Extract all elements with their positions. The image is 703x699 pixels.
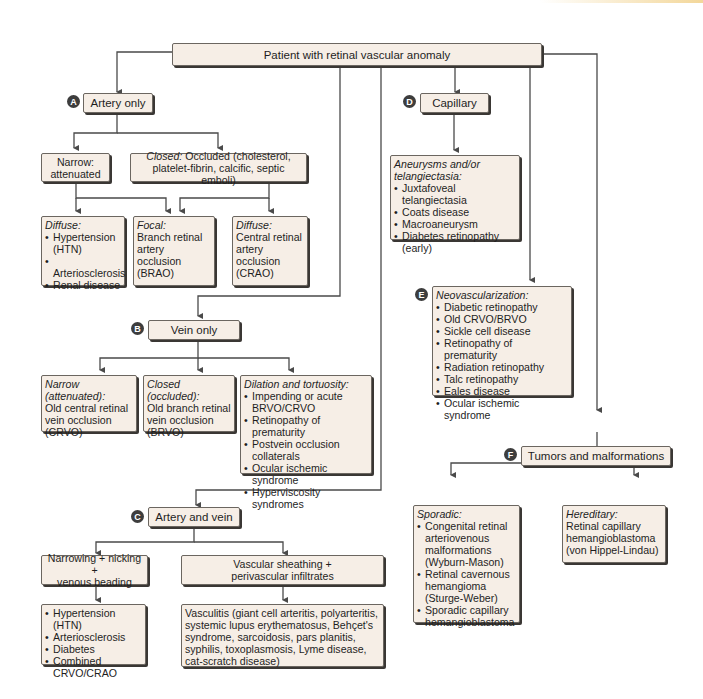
list-item: Diabetes — [45, 643, 142, 655]
artery-and-vein-node[interactable]: Artery and vein — [148, 507, 240, 527]
neo-hdr: Neovascularization: — [436, 289, 568, 301]
artery-diffuse-htn-node[interactable]: Diffuse: Hypertension (HTN) Arterioscler… — [41, 216, 125, 286]
artery-focal-hdr: Focal: — [137, 219, 211, 231]
badge-b-icon: B — [131, 322, 144, 335]
artery-only-label: Artery only — [91, 97, 146, 109]
list-item: Diabetic retinopathy — [436, 301, 568, 313]
list-item: Hypertension (HTN) — [45, 607, 142, 631]
vein-closed-node[interactable]: Closed (occluded): Old branch retinal ve… — [143, 375, 235, 432]
artery-diffuse2-text: Central retinal artery occlusion (CRAO) — [236, 231, 304, 279]
badge-d-icon: D — [403, 95, 416, 108]
vasculitis-text: Vasculitis (giant cell arteritis, polyar… — [185, 607, 380, 667]
artery-focal-node[interactable]: Focal: Branch retinal artery occlusion (… — [133, 216, 215, 286]
artery-closed-node[interactable]: Closed: Occluded (cholesterol, platelet-… — [130, 153, 307, 182]
artery-closed-hdr: Closed: — [146, 150, 182, 162]
vein-closed-hdr: Closed (occluded): — [147, 378, 231, 402]
list-item: Old CRVO/BRVO — [436, 313, 568, 325]
artery-narrow-line2: attenuated — [50, 168, 100, 180]
list-item: Hypertension (HTN) — [45, 231, 121, 255]
artery-diffuse-crao-node[interactable]: Diffuse: Central retinal artery occlusio… — [232, 216, 308, 286]
neovascularization-node[interactable]: Neovascularization: Diabetic retinopathy… — [432, 286, 572, 396]
list-item: Talc retinopathy — [436, 373, 568, 385]
vein-narrow-text: Old central retinal vein occlusion (CRVO… — [45, 402, 133, 438]
list-item: Radiation retinopathy — [436, 361, 568, 373]
list-item: Impending or acute BRVO/CRVO — [244, 390, 368, 414]
narrowing-line2: venous beading — [57, 576, 132, 588]
list-item: Sporadic capillary hemangioblastoma — [417, 604, 516, 628]
artery-diffuse2-hdr: Diffuse: — [236, 219, 304, 231]
list-item: Eales disease — [436, 385, 568, 397]
vein-dilation-node[interactable]: Dilation and tortuosity: Impending or ac… — [240, 375, 372, 474]
badge-c-icon: C — [131, 510, 144, 523]
list-item: Retinopathy of prematurity — [436, 337, 568, 361]
aneurysm-hdr: Aneurysms and/or telangiectasia: — [394, 158, 516, 182]
narrowing-causes-node[interactable]: Hypertension (HTN) Arteriosclerosis Diab… — [41, 604, 146, 665]
badge-f-icon: F — [504, 448, 517, 461]
narrowing-line1: Narrowing + nicking + — [45, 552, 144, 576]
artery-focal-text: Branch retinal artery occlusion (BRAO) — [137, 231, 211, 279]
tumors-node[interactable]: Tumors and malformations — [521, 446, 671, 466]
sheathing-line1: Vascular sheathing + — [233, 558, 331, 570]
artery-and-vein-label: Artery and vein — [155, 511, 232, 523]
artery-narrow-line1: Narrow: — [57, 156, 94, 168]
capillary-node[interactable]: Capillary — [420, 93, 489, 113]
vein-narrow-node[interactable]: Narrow (attenuated): Old central retinal… — [41, 375, 137, 432]
sporadic-hdr: Sporadic: — [417, 508, 516, 520]
vein-only-node[interactable]: Vein only — [148, 320, 240, 340]
list-item: Ocular ischemic syndrome — [436, 397, 568, 421]
root-node[interactable]: Patient with retinal vascular anomaly — [172, 43, 542, 66]
hereditary-hdr: Hereditary: — [566, 508, 662, 520]
list-item: Renal disease — [45, 279, 121, 291]
hereditary-text: Retinal capillary hemangioblastoma (von … — [566, 520, 662, 556]
list-item: Arteriosclerosis — [45, 255, 121, 279]
list-item: Sickle cell disease — [436, 325, 568, 337]
list-item: Diabetes retinopathy (early) — [394, 230, 516, 254]
badge-e-icon: E — [415, 288, 428, 301]
sporadic-node[interactable]: Sporadic: Congenital retinal arterioveno… — [413, 505, 520, 623]
artery-diffuse-hdr: Diffuse: — [45, 219, 121, 231]
vein-narrow-hdr: Narrow (attenuated): — [45, 378, 133, 402]
root-label: Patient with retinal vascular anomaly — [264, 49, 451, 61]
list-item: Macroaneurysm — [394, 218, 516, 230]
list-item: Juxtafoveal telangiectasia — [394, 182, 516, 206]
capillary-label: Capillary — [432, 97, 477, 109]
list-item: Combined CRVO/CRAO — [45, 655, 142, 679]
list-item: Retinal cavernous hemangioma (Sturge-Web… — [417, 568, 516, 604]
narrowing-nicking-node[interactable]: Narrowing + nicking + venous beading — [41, 555, 148, 585]
list-item: Retinopathy of prematurity — [244, 414, 368, 438]
hereditary-node[interactable]: Hereditary: Retinal capillary hemangiobl… — [562, 505, 666, 563]
artery-only-node[interactable]: Artery only — [83, 93, 153, 113]
badge-a-icon: A — [67, 95, 80, 108]
artery-narrow-node[interactable]: Narrow: attenuated — [41, 153, 110, 182]
list-item: Postvein occlusion collaterals — [244, 438, 368, 462]
vascular-sheathing-node[interactable]: Vascular sheathing + perivascular infilt… — [181, 555, 384, 585]
vein-dilation-hdr: Dilation and tortuosity: — [244, 378, 368, 390]
list-item: Hyperviscosity syndromes — [244, 486, 368, 510]
sheathing-line2: perivascular infiltrates — [231, 570, 333, 582]
list-item: Arteriosclerosis — [45, 631, 142, 643]
vasculitis-node[interactable]: Vasculitis (giant cell arteritis, polyar… — [181, 604, 384, 667]
list-item: Coats disease — [394, 206, 516, 218]
list-item: Congenital retinal arteriovenous malform… — [417, 520, 516, 568]
vein-only-label: Vein only — [171, 324, 218, 336]
list-item: Ocular ischemic syndrome — [244, 462, 368, 486]
tumors-label: Tumors and malformations — [528, 450, 664, 462]
vein-closed-text: Old branch retinal vein occlusion (BRVO) — [147, 402, 231, 438]
aneurysm-node[interactable]: Aneurysms and/or telangiectasia: Juxtafo… — [390, 155, 520, 240]
